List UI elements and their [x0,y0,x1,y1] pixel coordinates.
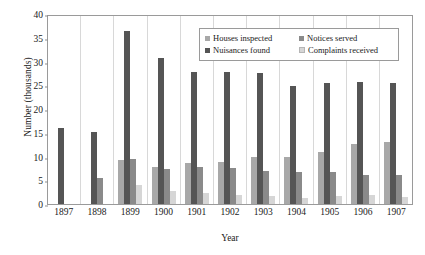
bar-nuisances-found [58,128,64,204]
chart-legend: Houses inspected Notices served Nuisance… [199,28,399,61]
legend-row: Nuisances found Complaints received [205,44,393,56]
bar-group-bars [81,16,113,204]
bar-group [148,16,181,204]
x-tick-label: 1902 [213,207,246,217]
bar-complaints-received [336,196,342,204]
bar-chart: Number (thousands) 0510152025303540 1897… [0,0,425,255]
legend-swatch-icon [205,48,210,53]
legend-swatch-icon [299,47,305,53]
bar-group-bars [148,16,180,204]
legend-label: Houses inspected [213,32,272,44]
legend-label: Notices served [307,32,357,44]
x-axis-ticks: 1897189818991900190119021903190419051906… [47,207,413,217]
bar-group-bars [48,16,80,204]
legend-label: Complaints received [308,44,378,56]
bar-group [114,16,147,204]
bar-complaints-received [170,191,176,204]
bar-complaints-received [402,197,408,204]
legend-item-notices-served: Notices served [299,32,393,44]
x-tick-label: 1898 [80,207,113,217]
bar-notices-served [97,178,103,204]
bar-complaints-received [302,198,308,204]
x-tick-label: 1899 [114,207,147,217]
x-tick-label: 1905 [313,207,346,217]
y-axis-label: Number (thousands) [23,17,33,177]
bar-complaints-received [269,196,275,204]
bar-complaints-received [236,195,242,204]
bar-group-bars [114,16,146,204]
x-tick-label: 1901 [180,207,213,217]
bar-complaints-received [136,185,142,204]
legend-label: Nuisances found [213,44,270,56]
legend-item-complaints-received: Complaints received [299,44,393,56]
bar-complaints-received [203,193,209,204]
legend-swatch-icon [299,36,304,41]
x-tick-label: 1906 [346,207,379,217]
x-tick-label: 1903 [247,207,280,217]
bar-group [81,16,114,204]
x-tick-label: 1907 [380,207,413,217]
legend-item-houses-inspected: Houses inspected [205,32,299,44]
x-tick-label: 1897 [47,207,80,217]
bar-complaints-received [369,195,375,204]
x-tick-label: 1904 [280,207,313,217]
x-axis-label: Year [47,233,413,243]
legend-swatch-icon [205,36,210,41]
x-tick-label: 1900 [147,207,180,217]
legend-item-nuisances-found: Nuisances found [205,44,299,56]
legend-row: Houses inspected Notices served [205,32,393,44]
bar-group [48,16,81,204]
